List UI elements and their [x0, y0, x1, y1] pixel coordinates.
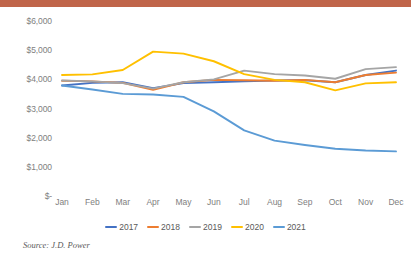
legend-swatch-icon	[231, 226, 243, 228]
x-axis-tick: Jul	[230, 197, 258, 207]
series-line-2019	[62, 67, 396, 89]
series-line-2020	[62, 52, 396, 91]
legend-item-2017[interactable]: 2017	[105, 222, 138, 232]
legend-swatch-icon	[189, 226, 201, 228]
y-axis-tick: $5,000	[8, 45, 52, 55]
y-axis-tick: $3,000	[8, 104, 52, 114]
chart-plot-svg	[0, 7, 411, 222]
x-axis-tick: Mar	[109, 197, 137, 207]
x-axis-tick: Jun	[200, 197, 228, 207]
x-axis-tick: Sep	[291, 197, 319, 207]
line-chart: $6,000$5,000$4,000$3,000$2,000$1,000$- J…	[0, 7, 411, 222]
series-line-2021	[62, 85, 396, 151]
y-axis-tick: $-	[8, 191, 52, 201]
x-axis-tick: May	[169, 197, 197, 207]
legend-swatch-icon	[147, 226, 159, 228]
legend-item-2019[interactable]: 2019	[189, 222, 222, 232]
legend-item-2020[interactable]: 2020	[231, 222, 264, 232]
x-axis-tick: Aug	[261, 197, 289, 207]
y-axis-tick: $4,000	[8, 74, 52, 84]
x-axis-tick: Nov	[352, 197, 380, 207]
x-axis-tick: Feb	[78, 197, 106, 207]
legend-label: 2021	[287, 222, 306, 232]
x-axis-tick: Dec	[382, 197, 410, 207]
y-axis-tick: $2,000	[8, 133, 52, 143]
legend-swatch-icon	[105, 226, 117, 228]
legend-label: 2018	[161, 222, 180, 232]
x-axis-tick: Oct	[321, 197, 349, 207]
source-note: Source: J.D. Power	[23, 240, 90, 250]
legend-item-2021[interactable]: 2021	[273, 222, 306, 232]
x-axis-tick: Jan	[48, 197, 76, 207]
legend-label: 2019	[203, 222, 222, 232]
chart-legend: 20172018201920202021	[0, 219, 411, 235]
legend-label: 2020	[245, 222, 264, 232]
legend-item-2018[interactable]: 2018	[147, 222, 180, 232]
x-axis-tick: Apr	[139, 197, 167, 207]
y-axis-tick: $6,000	[8, 16, 52, 26]
top-banner	[0, 0, 411, 7]
chart-series-group	[62, 52, 396, 152]
y-axis-tick: $1,000	[8, 162, 52, 172]
legend-swatch-icon	[273, 226, 285, 228]
legend-label: 2017	[119, 222, 138, 232]
